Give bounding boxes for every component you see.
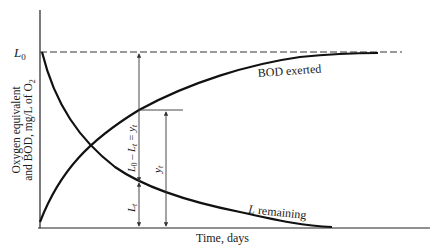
lt-annotation-label: Lt bbox=[125, 203, 139, 213]
yt-annotation-label: yt bbox=[151, 165, 165, 174]
bod-diagram: L0 BOD exerted L remaining Time, days Ox… bbox=[0, 0, 438, 250]
y-axis-label: Oxygen equivalent and BOD, mg/L of O2 bbox=[10, 79, 37, 181]
l0-label: L0 bbox=[13, 45, 26, 62]
x-axis-label: Time, days bbox=[196, 231, 249, 245]
diff-annotation-label: L0 – Lt = yt bbox=[126, 124, 139, 173]
bod-exerted-label: BOD exerted bbox=[257, 62, 321, 80]
l-remaining-curve bbox=[42, 52, 332, 227]
bod-exerted-curve bbox=[40, 53, 378, 222]
svg-text:and BOD, mg/L of O2: and BOD, mg/L of O2 bbox=[22, 79, 37, 181]
